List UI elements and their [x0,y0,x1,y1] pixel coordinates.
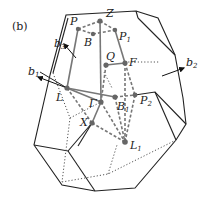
point-X [89,120,94,125]
point-L1 [122,139,128,145]
b2-arrow [162,68,184,76]
point-P1 [113,28,117,32]
hidden-edges [53,62,176,182]
point-P2 [133,93,138,98]
point-Z [97,18,102,23]
point-L [64,85,69,90]
point-Q [103,62,108,67]
label-B1: B1 [116,100,130,114]
label-b3: b3 [54,37,66,51]
label-Z: Z [105,7,114,20]
point-F [122,60,127,65]
label-b1: b1 [28,65,40,79]
label-X: X [79,116,89,129]
label-L: L [55,91,63,104]
panel-label: (b) [12,20,28,33]
label-L1: L1 [129,139,142,153]
brillouin-zone-diagram: (b) P B Z P1 Q F L Γ B1 P2 X L1 b1 b2 b3 [0,0,204,201]
b1-arrow [38,77,67,88]
point-Gamma [98,99,103,104]
label-P: P [69,15,78,28]
label-P2: P2 [139,94,152,108]
label-Gamma: Γ [88,97,97,110]
label-b2: b2 [186,56,198,70]
point-B1 [112,94,117,99]
label-Q: Q [106,50,115,63]
label-P1: P1 [118,30,131,44]
label-B: B [83,36,92,49]
label-F: F [128,56,137,69]
